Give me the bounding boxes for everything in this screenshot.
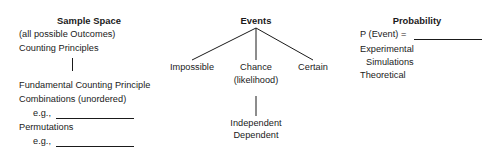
- sample-space-heading: Sample Space: [57, 15, 121, 26]
- permutations-example-blank[interactable]: [56, 146, 134, 147]
- counting-principles-connector-line: [72, 58, 73, 71]
- probability-line-simulations: Simulations: [366, 57, 414, 68]
- probability-formula-label: P (Event) =: [360, 29, 406, 40]
- sample-space-line-counting-principles: Counting Principles: [19, 43, 99, 54]
- sample-space-line-permutations: Permutations: [19, 122, 73, 133]
- events-heading: Events: [241, 15, 272, 26]
- sample-space-line-combinations: Combinations (unordered): [19, 94, 126, 105]
- probability-heading: Probability: [393, 15, 442, 26]
- combinations-example-blank[interactable]: [56, 118, 134, 119]
- probability-line-experimental: Experimental: [360, 44, 414, 55]
- events-branch-line-impossible: [192, 28, 256, 60]
- chance-child-independent: Independent: [230, 118, 281, 129]
- chance-child-dependent: Dependent: [233, 130, 278, 141]
- events-branch-impossible: Impossible: [170, 62, 214, 73]
- probability-line-theoretical: Theoretical: [360, 70, 406, 81]
- sample-space-line-fundamental-counting-principle: Fundamental Counting Principle: [19, 80, 150, 91]
- events-branch-chance-sublabel: (likelihood): [234, 75, 279, 86]
- events-branch-certain: Certain: [298, 62, 328, 73]
- events-branch-line-certain: [256, 28, 313, 60]
- events-branch-chance: Chance: [240, 62, 272, 73]
- sample-space-line-all-possible-outcomes: (all possible Outcomes): [19, 29, 115, 40]
- probability-formula-blank[interactable]: [414, 39, 482, 40]
- permutations-example-label: e.g.,: [33, 136, 51, 147]
- combinations-example-label: e.g.,: [33, 108, 51, 119]
- concept-map-diagram: Sample Space (all possible Outcomes) Cou…: [0, 0, 484, 160]
